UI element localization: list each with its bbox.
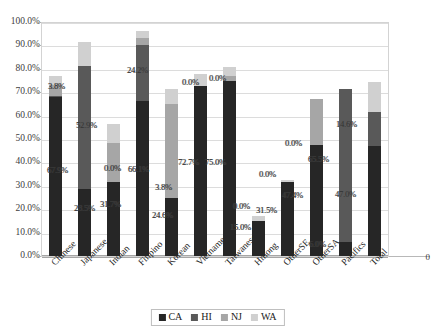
data-label: 3.8% — [155, 183, 172, 192]
legend-swatch-icon — [191, 314, 198, 321]
y-axis-tick-label: 20.0% — [0, 204, 40, 214]
data-label: 0.0% — [182, 78, 199, 87]
legend: CAHINJWA — [150, 309, 284, 326]
bar-indian[interactable] — [107, 124, 120, 256]
y-axis-tick-label: 0.0% — [0, 251, 40, 261]
data-label: 31.7% — [100, 200, 121, 209]
bar-segment-ca — [78, 189, 91, 256]
y-axis-tick-label: 30.0% — [0, 181, 40, 191]
data-label: 0.0% — [233, 202, 250, 211]
bar-segment-ca — [368, 146, 381, 256]
data-label: 28.5% — [74, 204, 95, 213]
data-label: 31.5% — [256, 206, 277, 215]
y-axis-tick-label: 70.0% — [0, 87, 40, 97]
data-label: 65.5% — [308, 155, 329, 164]
data-label: 0.0% — [209, 74, 226, 83]
bar-series-container — [41, 22, 389, 256]
data-label: 52.9% — [76, 121, 97, 130]
legend-label: WA — [261, 312, 277, 322]
legend-label: HI — [201, 312, 212, 322]
data-label: 24.6% — [152, 211, 173, 220]
y-axis-tick-label: 10.0% — [0, 228, 40, 238]
bar-segment-wa — [107, 124, 120, 144]
bar-korean[interactable] — [165, 89, 178, 256]
bar-segment-nj — [310, 99, 323, 145]
y-axis-tick-label: 50.0% — [0, 134, 40, 144]
axis-right-zero-label: 0 — [426, 252, 431, 262]
y-axis-tick-label: 60.0% — [0, 111, 40, 121]
data-label: 66.1% — [128, 165, 149, 174]
legend-item-nj[interactable]: NJ — [221, 312, 242, 322]
data-label: 72.7% — [178, 158, 199, 167]
legend-item-wa[interactable]: WA — [251, 312, 277, 322]
data-label: 75.0% — [205, 158, 226, 167]
bar-segment-ca — [194, 86, 207, 256]
data-label: 0.0% — [104, 164, 121, 173]
legend-swatch-icon — [158, 314, 165, 321]
bar-total[interactable] — [368, 82, 381, 256]
data-label: 47.0% — [335, 190, 356, 199]
bar-othersa[interactable] — [310, 99, 323, 256]
data-label: 14.6% — [336, 120, 357, 129]
bar-segment-ca — [136, 101, 149, 256]
data-label: 0.0% — [259, 170, 276, 179]
data-label: 67.9% — [47, 166, 68, 175]
y-axis-tick — [37, 256, 41, 257]
y-axis-tick-label: 90.0% — [0, 40, 40, 50]
data-label: 0.0% — [285, 139, 302, 148]
data-label: 3.8% — [48, 82, 65, 91]
bar-segment-wa — [136, 31, 149, 38]
bar-segment-ca — [49, 97, 62, 256]
legend-label: NJ — [231, 312, 242, 322]
bar-segment-ca — [107, 182, 120, 256]
y-axis-tick-label: 40.0% — [0, 157, 40, 167]
data-label: 47.4% — [282, 191, 303, 200]
data-label: 24.2% — [127, 66, 148, 75]
bar-segment-ca — [165, 198, 178, 256]
bar-pacifics[interactable] — [339, 89, 352, 256]
axis-extension-line — [389, 256, 430, 257]
data-label: 15.0% — [230, 223, 251, 232]
legend-item-hi[interactable]: HI — [191, 312, 212, 322]
stacked-bar-chart: 0.0%10.0%20.0%30.0%40.0%50.0%60.0%70.0%8… — [0, 0, 435, 332]
legend-label: CA — [168, 312, 182, 322]
bar-japanese[interactable] — [78, 42, 91, 256]
bar-segment-wa — [368, 82, 381, 112]
legend-item-ca[interactable]: CA — [158, 312, 182, 322]
bar-segment-wa — [78, 42, 91, 65]
bar-segment-wa — [165, 89, 178, 104]
legend-swatch-icon — [251, 314, 258, 321]
bar-segment-hi — [339, 89, 352, 242]
bar-segment-hi — [368, 112, 381, 146]
legend-swatch-icon — [221, 314, 228, 321]
y-axis-tick-label: 100.0% — [0, 17, 40, 27]
y-axis-tick-label: 80.0% — [0, 64, 40, 74]
